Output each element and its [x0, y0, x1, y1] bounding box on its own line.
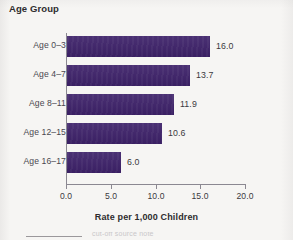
x-tick-20	[245, 185, 246, 189]
bar-age-12-15[interactable]	[67, 123, 162, 144]
bar-age-8-11[interactable]	[67, 94, 174, 115]
category-label-age-16-17: Age 16–17	[24, 156, 66, 166]
bar-age-4-7[interactable]	[67, 65, 190, 86]
category-label-age-12-15: Age 12–15	[24, 127, 66, 137]
y-axis-line	[66, 33, 67, 184]
value-label-age-8-11: 11.9	[180, 99, 197, 109]
x-tick-15	[200, 185, 201, 189]
bar-age-16-17[interactable]	[67, 152, 121, 173]
footer-cutoff-text: cut-off source note	[92, 232, 154, 237]
category-label-age-0-3: Age 0–3	[33, 40, 66, 50]
footer-cutoff: cut-off source note	[0, 232, 293, 240]
category-label-age-4-7: Age 4–7	[33, 69, 66, 79]
plot-area: Age 0–3 Age 4–7 Age 8–11 Age 12–15 Age 1…	[0, 0, 293, 240]
value-label-age-12-15: 10.6	[168, 128, 186, 138]
x-axis-title: Rate per 1,000 Children	[0, 212, 293, 222]
x-tick-label-5: 5.0	[105, 191, 117, 201]
x-tick-label-10: 10.0	[147, 191, 164, 201]
x-tick-label-15: 15.0	[191, 191, 208, 201]
x-tick-5	[111, 185, 112, 189]
bar-age-0-3[interactable]	[67, 36, 210, 57]
value-label-age-16-17: 6.0	[127, 157, 140, 167]
category-label-age-8-11: Age 8–11	[29, 98, 66, 108]
x-tick-label-0: 0.0	[60, 191, 72, 201]
x-tick-label-20: 20.0	[236, 191, 253, 201]
chart-figure: Age Group Age 0–3 Age 4–7 Age 8–11 Age 1…	[0, 0, 293, 240]
footer-rule	[26, 236, 82, 237]
value-label-age-0-3: 16.0	[216, 41, 234, 51]
value-label-age-4-7: 13.7	[196, 70, 214, 80]
x-tick-0	[66, 185, 67, 189]
x-tick-10	[156, 185, 157, 189]
